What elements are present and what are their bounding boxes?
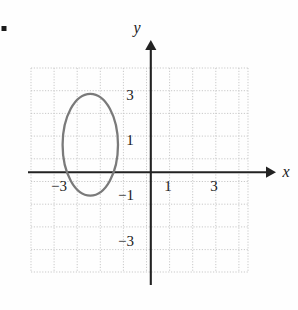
y-tick-label-neg3: −3 bbox=[118, 233, 134, 249]
x-tick-label-neg3: −3 bbox=[51, 178, 67, 194]
x-tick-label-3: 3 bbox=[210, 178, 218, 194]
figure-container: y x 3 1 −1 −3 −3 1 3 bbox=[0, 0, 298, 310]
coordinate-plane-figure: y x 3 1 −1 −3 −3 1 3 bbox=[0, 0, 298, 310]
y-axis-arrowhead-icon bbox=[145, 40, 156, 50]
ellipse-curve bbox=[63, 94, 118, 196]
y-tick-label-3: 3 bbox=[126, 87, 134, 103]
x-axis-label: x bbox=[281, 163, 289, 180]
y-tick-label-neg1: −1 bbox=[118, 187, 134, 203]
y-tick-label-1: 1 bbox=[126, 132, 134, 148]
bullet-marker-icon bbox=[2, 26, 7, 31]
grid-lines bbox=[31, 68, 248, 272]
x-tick-label-1: 1 bbox=[164, 178, 172, 194]
y-axis-label: y bbox=[131, 19, 141, 37]
x-axis-arrowhead-icon bbox=[266, 167, 276, 178]
